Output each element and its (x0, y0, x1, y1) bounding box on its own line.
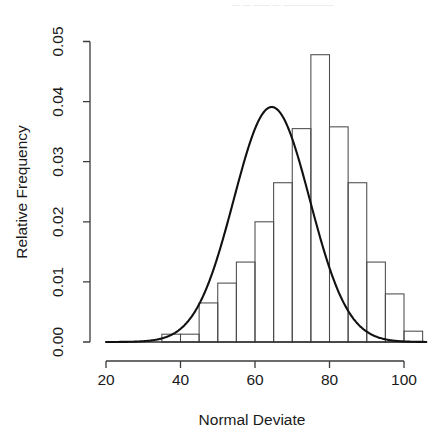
x-tick-label: 20 (97, 371, 115, 388)
x-tick-label: 80 (321, 371, 339, 388)
histogram-bar (218, 283, 237, 342)
y-tick-label: 0.03 (49, 147, 66, 177)
y-axis (83, 42, 90, 343)
y-axis-title: Relative Frequency (13, 125, 30, 259)
y-tick-label: 0.01 (49, 267, 66, 297)
histogram-bar (292, 129, 311, 342)
y-tick-labels: 0.000.010.020.030.040.05 (49, 26, 66, 357)
x-tick-labels: 20406080100 (97, 371, 417, 388)
histogram-bar (311, 55, 330, 342)
histogram-bar (199, 303, 218, 342)
x-tick-label: 60 (246, 371, 264, 388)
chart-canvas: 0.000.010.020.030.040.05 20406080100 Rel… (0, 0, 439, 447)
histogram-bar (236, 262, 255, 342)
histogram-bar (330, 127, 349, 342)
y-tick-label: 0.04 (49, 86, 66, 117)
y-tick-label: 0.05 (49, 26, 66, 56)
histogram-bar (181, 334, 200, 342)
histogram-bar (367, 262, 386, 342)
histogram-bar (385, 294, 404, 342)
x-axis (106, 361, 404, 368)
histogram-bar (255, 222, 274, 342)
normal-density-curve (106, 107, 426, 342)
histogram-bar (404, 331, 423, 342)
y-tick-label: 0.00 (49, 327, 66, 358)
chart-figure: — — —— — —————— 0.000.010.020.030.040.05… (0, 0, 439, 447)
histogram-bar (274, 183, 293, 342)
y-tick-label: 0.02 (49, 207, 66, 237)
histogram-bar (348, 183, 367, 342)
x-tick-label: 40 (172, 371, 190, 388)
x-axis-title: Normal Deviate (199, 411, 306, 428)
x-tick-label: 100 (391, 371, 417, 388)
